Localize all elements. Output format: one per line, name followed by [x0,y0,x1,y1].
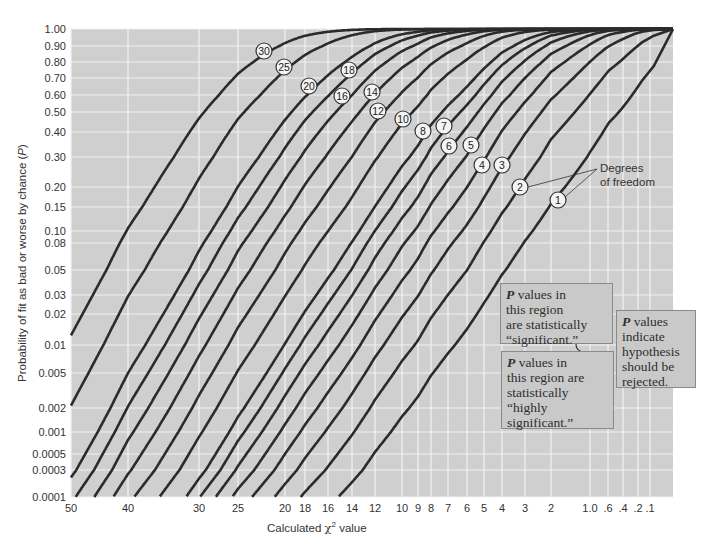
y-tick-label: 0.08 [45,237,66,249]
x-tick-label: 5 [481,502,487,514]
x-tick-label: 40 [122,502,134,514]
svg-text:7: 7 [441,120,447,132]
y-tick-label: 1.00 [45,23,66,35]
y-tick-label: 0.90 [45,40,66,52]
x-tick-label: 14 [346,502,358,514]
y-tick-label: 0.40 [45,126,66,138]
x-tick-label: .1 [645,502,654,514]
svg-text:2: 2 [517,181,523,193]
y-tick-label: 0.70 [45,72,66,84]
chi-square-chart: 1.000.900.800.700.600.500.400.300.200.15… [0,0,701,556]
df-badge-2: 2 [512,179,528,195]
df-badge-7: 7 [436,118,452,134]
df-badge-18: 18 [341,62,357,78]
y-tick-label: 0.03 [45,289,66,301]
svg-text:3: 3 [499,159,505,171]
df-badge-12: 12 [370,103,386,119]
x-tick-label: 50 [65,502,77,514]
y-tick-label: 0.005 [38,367,66,379]
svg-text:30: 30 [258,45,270,57]
x-tick-label: 10 [396,502,408,514]
x-tick-label: .4 [618,502,627,514]
highly-significant-box: P values in this region are statisticall… [501,351,614,429]
svg-text:6: 6 [446,140,452,152]
y-tick-label: 0.60 [45,89,66,101]
x-tick-label: 2 [548,502,554,514]
df-badge-14: 14 [364,84,380,100]
y-axis-title: Probability of fit as bad or worse by ch… [16,144,28,382]
svg-text:14: 14 [366,86,378,98]
svg-text:8: 8 [420,125,426,137]
x-tick-label: 16 [322,502,334,514]
x-tick-label: 30 [193,502,205,514]
y-tick-label: 0.002 [38,402,66,414]
x-tick-label: 4 [499,502,505,514]
svg-text:12: 12 [372,105,384,117]
x-tick-label: 3 [522,502,528,514]
x-tick-label: 1.0 [582,502,597,514]
dof-label-2: of freedom [600,176,655,188]
y-tick-label: 0.01 [45,339,66,351]
y-tick-label: 0.0005 [32,448,66,460]
y-tick-label: 0.0003 [32,464,66,476]
y-tick-label: 0.02 [45,308,66,320]
df-badge-4: 4 [474,157,490,173]
df-badge-5: 5 [463,137,479,153]
x-tick-label: .2 [633,502,642,514]
df-badge-3: 3 [494,157,510,173]
y-tick-label: 0.50 [45,106,66,118]
svg-text:4: 4 [479,159,485,171]
y-tick-label: 0.15 [45,201,66,213]
significant-box: P values in this region are statisticall… [500,283,613,344]
svg-text:1: 1 [555,194,561,206]
svg-text:16: 16 [336,90,348,102]
df-badge-6: 6 [441,138,457,154]
df-badge-1: 1 [550,192,566,208]
svg-text:18: 18 [343,64,355,76]
x-tick-label: 20 [279,502,291,514]
svg-text:5: 5 [468,139,474,151]
y-tick-label: 0.80 [45,56,66,68]
x-tick-label: 6 [464,502,470,514]
x-tick-label: 9 [415,502,421,514]
df-badge-8: 8 [415,123,431,139]
y-tick-label: 0.10 [45,225,66,237]
y-tick-label: 0.001 [38,426,66,438]
svg-text:25: 25 [278,61,290,73]
svg-text:20: 20 [303,80,315,92]
y-axis-ticks: 1.000.900.800.700.600.500.400.300.200.15… [32,23,66,503]
x-tick-label: 8 [428,502,434,514]
df-badge-25: 25 [276,59,292,75]
reject-hypothesis-box: P values indicate hypothesis should be r… [616,310,696,388]
x-tick-label: 12 [369,502,381,514]
y-tick-label: 0.0001 [32,491,66,503]
df-badge-10: 10 [395,111,411,127]
df-badge-20: 20 [301,78,317,94]
y-tick-label: 0.20 [45,181,66,193]
dof-label: Degrees [600,162,644,174]
x-tick-label: 18 [299,502,311,514]
x-axis-title: Calculated χ2 value [267,520,367,535]
df-badge-30: 30 [256,43,272,59]
x-tick-label: 25 [232,502,244,514]
df-badge-16: 16 [334,88,350,104]
x-tick-label: .6 [603,502,612,514]
x-tick-label: 7 [445,502,451,514]
svg-text:10: 10 [397,113,409,125]
x-axis-ticks: 50403025201816141210987654321.0.6.4.2.1 [65,502,655,514]
y-tick-label: 0.05 [45,264,66,276]
y-tick-label: 0.30 [45,151,66,163]
